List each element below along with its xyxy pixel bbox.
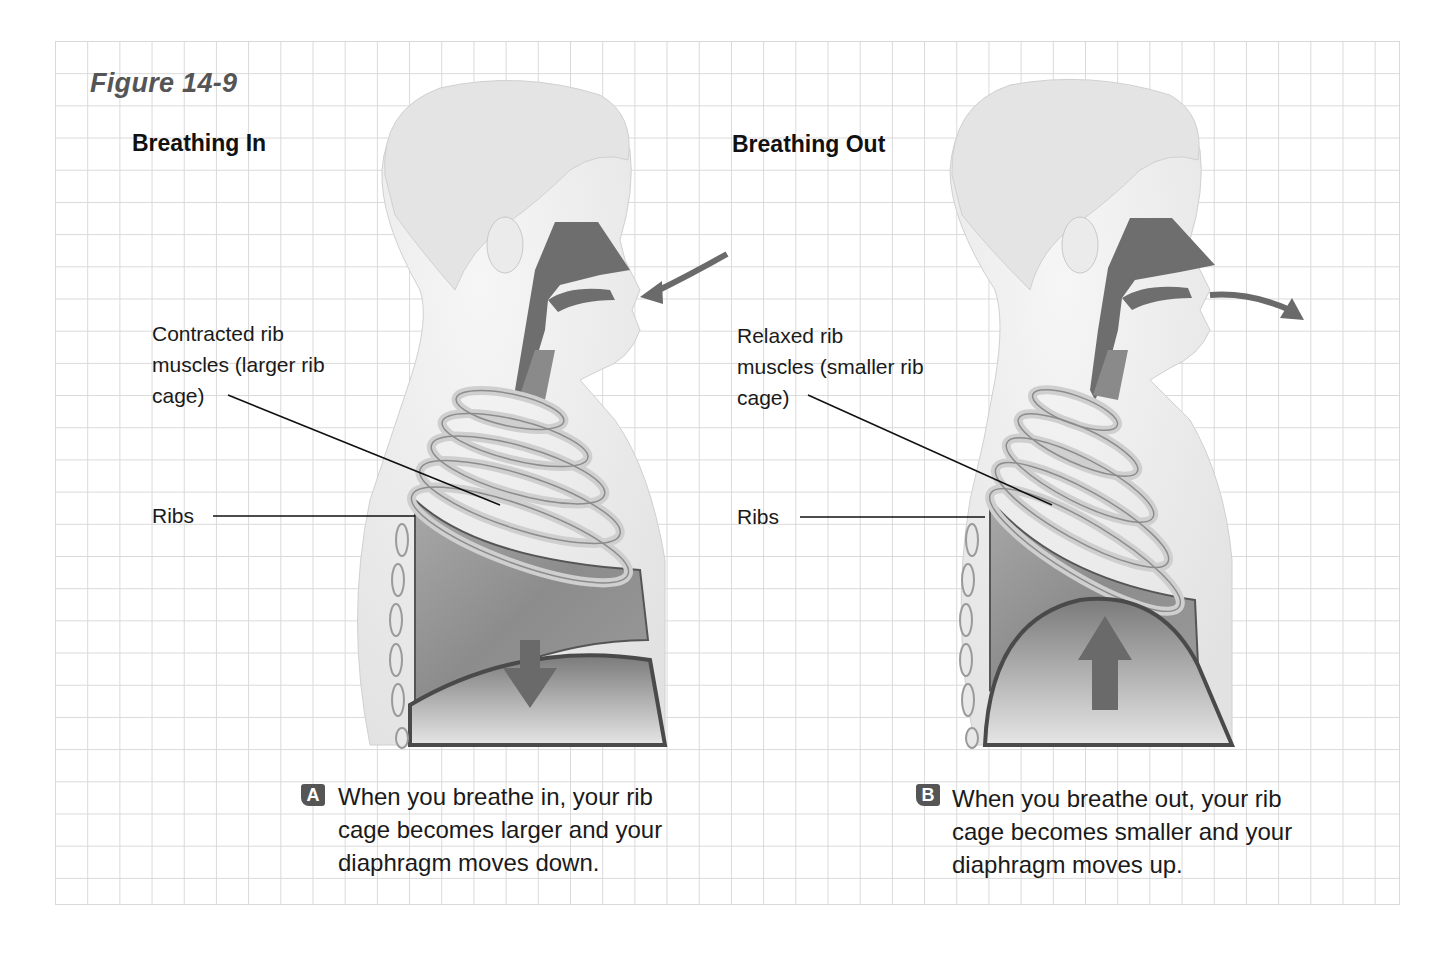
- label-contracted-rib-muscles: Contracted rib muscles (larger rib cage): [152, 318, 325, 411]
- caption-badge-a: A: [301, 784, 325, 806]
- caption-badge-b: B: [916, 784, 940, 806]
- panel-a-figure: [213, 80, 727, 748]
- label-relaxed-rib-muscles: Relaxed rib muscles (smaller rib cage): [737, 320, 924, 413]
- label-ribs-a: Ribs: [152, 500, 194, 531]
- caption-b: When you breathe out, your rib cage beco…: [952, 782, 1292, 881]
- panel-b-figure: [800, 79, 1304, 748]
- caption-a: When you breathe in, your rib cage becom…: [338, 780, 662, 879]
- label-ribs-b: Ribs: [737, 501, 779, 532]
